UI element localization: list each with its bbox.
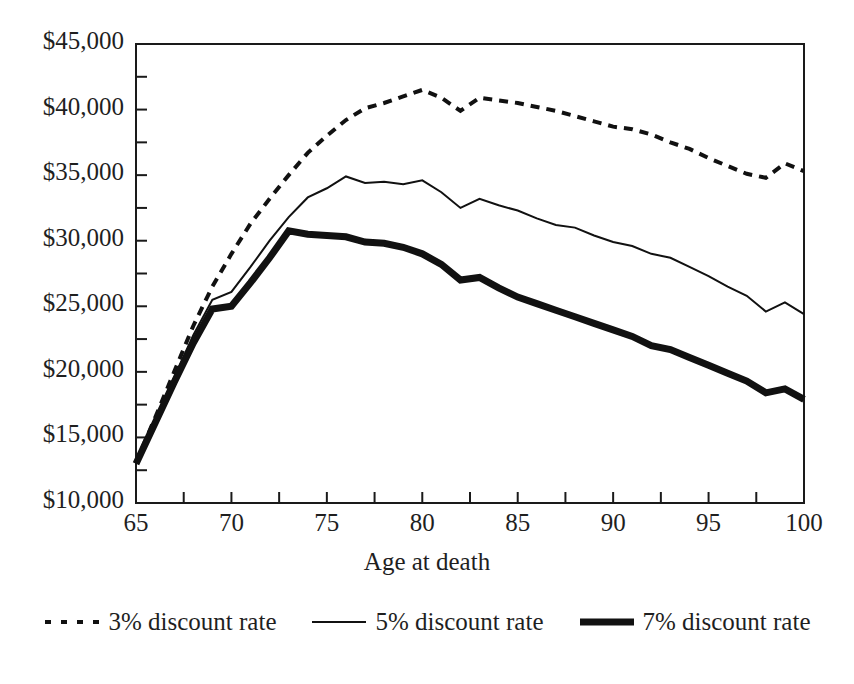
- series-line-3: [136, 231, 804, 464]
- x-tick-label: 85: [478, 509, 558, 537]
- y-tick-label: $30,000: [43, 224, 124, 252]
- legend-label: 7% discount rate: [643, 608, 811, 636]
- x-tick-label: 95: [669, 509, 749, 537]
- legend-item-3[interactable]: 7% discount rate: [578, 608, 811, 636]
- legend-label: 3% discount rate: [108, 608, 276, 636]
- chart-legend: 3% discount rate5% discount rate7% disco…: [0, 608, 854, 636]
- x-tick-label: 75: [287, 509, 367, 537]
- y-tick-label: $45,000: [43, 27, 124, 55]
- series-line-2: [136, 176, 804, 462]
- data-series-layer: [136, 90, 804, 464]
- axis-tick-marks: [136, 77, 756, 503]
- thin-line-swatch: [310, 614, 368, 630]
- y-tick-label: $40,000: [43, 93, 124, 121]
- legend-item-1[interactable]: 3% discount rate: [43, 608, 276, 636]
- dotted-line-swatch: [43, 614, 101, 630]
- x-tick-label: 100: [764, 509, 844, 537]
- chart-figure: $10,000$15,000$20,000$25,000$30,000$35,0…: [0, 0, 854, 684]
- x-tick-label: 80: [382, 509, 462, 537]
- x-tick-label: 70: [191, 509, 271, 537]
- x-tick-label: 90: [573, 509, 653, 537]
- thick-line-swatch: [578, 614, 636, 630]
- legend-item-2[interactable]: 5% discount rate: [310, 608, 543, 636]
- y-tick-label: $20,000: [43, 355, 124, 383]
- line-chart-plot: [0, 0, 854, 684]
- x-axis-title: Age at death: [0, 548, 854, 576]
- y-tick-label: $35,000: [43, 158, 124, 186]
- y-tick-label: $25,000: [43, 289, 124, 317]
- y-tick-label: $15,000: [43, 420, 124, 448]
- x-tick-label: 65: [96, 509, 176, 537]
- legend-label: 5% discount rate: [375, 608, 543, 636]
